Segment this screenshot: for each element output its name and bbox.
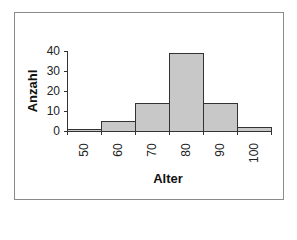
x-axis-title: Alter (153, 171, 183, 186)
x-tick (237, 131, 238, 135)
y-tick (64, 71, 68, 72)
x-tick (169, 131, 170, 135)
x-tick-label: 50 (78, 143, 90, 156)
x-tick-label: 90 (214, 143, 226, 156)
x-tick-label: 80 (180, 143, 192, 156)
x-tick (135, 131, 136, 135)
y-axis-title: Anzahl (25, 70, 40, 113)
x-tick-label: 100 (248, 143, 260, 163)
y-tick (64, 111, 68, 112)
x-tick-label: 60 (112, 143, 124, 156)
x-tick (101, 131, 102, 135)
y-tick-label: 0 (36, 125, 60, 137)
histogram-bar (237, 127, 272, 132)
x-tick (203, 131, 204, 135)
histogram-bar (135, 103, 170, 132)
x-tick-label: 70 (146, 143, 158, 156)
x-tick (271, 131, 272, 135)
y-tick-label: 30 (36, 65, 60, 77)
histogram-bar (203, 103, 238, 132)
y-tick-label: 20 (36, 85, 60, 97)
y-tick (64, 91, 68, 92)
y-tick (64, 51, 68, 52)
y-tick-label: 40 (36, 45, 60, 57)
histogram-bar (67, 129, 102, 132)
histogram-bar (101, 121, 136, 132)
histogram-bar (169, 53, 204, 132)
x-tick (67, 131, 68, 135)
y-tick-label: 10 (36, 105, 60, 117)
